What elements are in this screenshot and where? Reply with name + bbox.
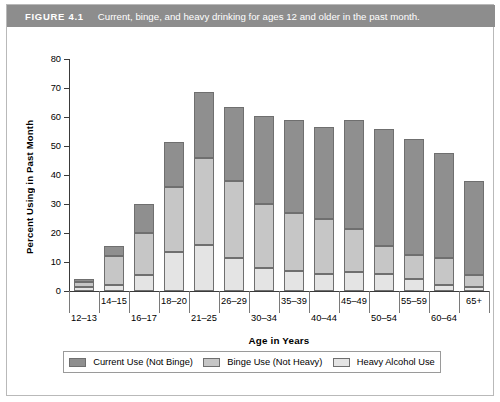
x-tick-label: 65+ [466,296,482,306]
bar-segment-heavy [254,268,274,291]
bar-segment-current [104,246,124,256]
bar-group [254,116,274,291]
x-tick-label: 26–29 [221,296,247,306]
y-tick-label: 60 [51,112,61,122]
bar-segment-heavy [104,285,124,291]
y-tick-label: 30 [51,199,61,209]
x-tick-mark [249,291,250,313]
x-tick-mark [459,291,460,313]
x-tick-label: 14–15 [101,296,127,306]
bar-segment-current [344,120,364,229]
bar-segment-binge [434,258,454,286]
legend-item-binge: Binge Use (Not Heavy) [203,357,322,367]
x-tick-label: 30–34 [251,313,277,323]
bar-segment-current [194,92,214,157]
bar-container [69,59,489,291]
x-tick-mark [309,291,310,313]
legend-swatch-current [69,358,86,367]
bar-segment-binge [104,256,124,285]
x-tick-mark [219,291,220,313]
bar-segment-current [284,120,304,213]
x-tick-mark [279,291,280,313]
bar-group [344,120,364,291]
bar-segment-heavy [194,245,214,291]
x-tick-mark [159,291,160,313]
y-tick-label: 50 [51,141,61,151]
bar-group [404,139,424,291]
legend-item-current: Current Use (Not Binge) [69,357,193,367]
bar-segment-binge [344,229,364,273]
figure-container: FIGURE 4.1 Current, binge, and heavy dri… [6,4,494,396]
bar-segment-binge [374,246,394,274]
legend-swatch-heavy [333,358,350,367]
bar-segment-heavy [374,274,394,291]
bar-segment-binge [314,219,334,274]
bar-group [284,120,304,291]
bar-segment-heavy [344,272,364,291]
x-tick-mark [399,291,400,313]
bar-segment-binge [194,158,214,245]
bar-segment-heavy [74,287,94,291]
bar-segment-current [74,279,94,282]
bar-segment-current [224,107,244,181]
bar-segment-binge [254,204,274,268]
bar-segment-binge [404,255,424,280]
x-tick-mark [429,291,430,313]
x-tick-label: 12–13 [71,313,97,323]
x-tick-mark [129,291,130,313]
x-tick-label: 50–54 [371,313,397,323]
legend-label-heavy: Heavy Alcohol Use [357,357,435,367]
bar-group [104,246,124,291]
x-tick-label: 18–20 [161,296,187,306]
bar-segment-current [464,181,484,275]
bar-segment-current [434,153,454,257]
x-tick-label: 60–64 [431,313,457,323]
legend-label-current: Current Use (Not Binge) [93,357,193,367]
bar-group [164,142,184,291]
legend-swatch-binge [203,358,220,367]
bar-segment-binge [284,213,304,271]
x-tick-label: 35–39 [281,296,307,306]
bar-group [374,129,394,291]
bar-segment-heavy [434,285,454,291]
y-tick-label: 40 [51,170,61,180]
figure-header-banner: FIGURE 4.1 Current, binge, and heavy dri… [7,5,495,27]
figure-caption: Current, binge, and heavy drinking for a… [98,11,420,22]
bar-segment-current [404,139,424,255]
bar-segment-current [314,127,334,218]
chart-axes: 01020304050607080 12–1314–1516–1718–2021… [69,59,489,291]
x-tick-mark [339,291,340,313]
bar-segment-heavy [284,271,304,291]
bar-group [134,204,154,291]
legend-label-binge: Binge Use (Not Heavy) [227,357,322,367]
bar-segment-heavy [164,252,184,291]
y-tick-label: 20 [51,228,61,238]
x-tick-label: 21–25 [191,313,217,323]
bar-segment-heavy [224,258,244,291]
bar-group [224,107,244,291]
bar-segment-current [134,204,154,233]
bar-segment-current [254,116,274,204]
x-tick-label: 45–49 [341,296,367,306]
bar-segment-binge [224,181,244,258]
bar-segment-heavy [314,274,334,291]
y-tick-label: 70 [51,83,61,93]
bar-group [464,181,484,291]
bar-segment-heavy [404,279,424,291]
x-tick-mark [99,291,100,313]
x-tick-label: 16–17 [131,313,157,323]
x-tick-mark [69,291,70,313]
x-tick-mark [189,291,190,313]
bar-segment-binge [464,275,484,287]
bar-segment-current [374,129,394,246]
bar-segment-heavy [134,275,154,291]
bar-segment-heavy [464,287,484,291]
bar-group [74,279,94,291]
bar-group [434,153,454,291]
x-axis-label: Age in Years [69,335,489,346]
bar-segment-binge [134,233,154,275]
legend-item-heavy: Heavy Alcohol Use [333,357,435,367]
y-tick-label: 10 [51,257,61,267]
x-tick-mark [369,291,370,313]
x-tick-label: 40–44 [311,313,337,323]
